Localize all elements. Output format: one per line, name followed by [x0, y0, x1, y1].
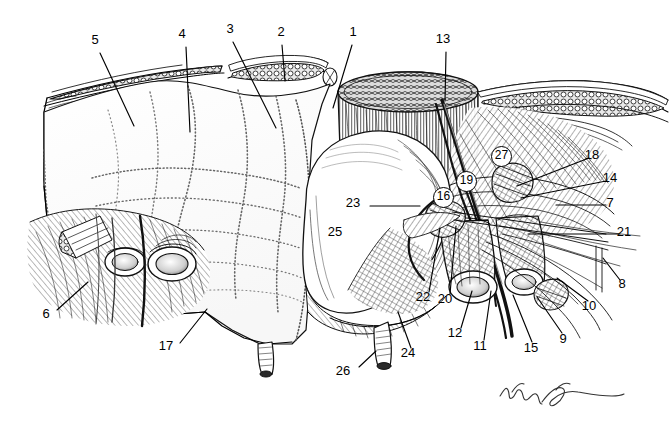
callout-label-16: 16	[433, 187, 454, 208]
illustration-canvas: 1234567891011121314151617181920212223242…	[0, 0, 671, 427]
callout-label-27: 27	[491, 146, 512, 167]
callout-label-4: 4	[178, 27, 185, 40]
callout-label-2: 2	[277, 25, 284, 38]
callout-label-22: 22	[416, 290, 430, 303]
callout-label-1: 1	[349, 25, 356, 38]
callout-label-23: 23	[346, 196, 360, 209]
callout-label-14: 14	[603, 171, 617, 184]
callout-label-5: 5	[91, 33, 98, 46]
callout-label-3: 3	[226, 22, 233, 35]
callout-label-6: 6	[42, 307, 49, 320]
callout-label-9: 9	[559, 332, 566, 345]
callout-label-25: 25	[328, 225, 342, 238]
callout-label-18: 18	[585, 148, 599, 161]
callout-label-10: 10	[582, 299, 596, 312]
callout-label-11: 11	[473, 339, 487, 352]
callout-label-19: 19	[456, 171, 477, 192]
callout-label-21: 21	[617, 225, 631, 238]
callout-label-17: 17	[159, 339, 173, 352]
callout-label-24: 24	[401, 346, 415, 359]
callout-label-7: 7	[606, 196, 613, 209]
callout-label-12: 12	[448, 326, 462, 339]
callout-label-8: 8	[618, 277, 625, 290]
callout-label-20: 20	[438, 292, 452, 305]
callout-label-13: 13	[436, 32, 450, 45]
flap-junction	[323, 68, 337, 86]
callout-label-26: 26	[336, 364, 350, 377]
cut-vessel-left-1	[105, 248, 145, 276]
callout-label-15: 15	[524, 341, 538, 354]
